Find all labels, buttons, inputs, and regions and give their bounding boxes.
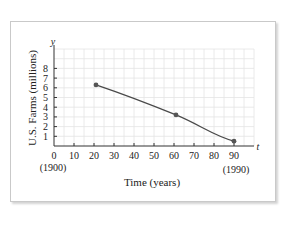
- x-tick-label: 40: [129, 150, 139, 161]
- y-tick-label: 3: [43, 111, 48, 122]
- y-axis-label: U.S. Farms (millions): [26, 50, 38, 146]
- x-tick-label: 30: [109, 150, 119, 161]
- year-annotation-end: (1990): [223, 164, 250, 175]
- x-tick-label: 50: [149, 150, 159, 161]
- t-axis-symbol: t: [257, 141, 260, 152]
- farms-curve: [96, 85, 234, 141]
- x-tick-label: 60: [169, 150, 179, 161]
- x-tick-label: 10: [69, 150, 79, 161]
- y-tick-label: 7: [43, 73, 48, 84]
- x-tick-label: 70: [189, 150, 199, 161]
- y-tick-label: 2: [43, 121, 48, 132]
- y-axis-symbol: y: [51, 36, 55, 47]
- y-tick-label: 5: [43, 92, 48, 103]
- year-annotation-start: (1900): [40, 162, 67, 173]
- data-point-marker: [232, 139, 237, 144]
- y-tick-label: 4: [43, 102, 48, 113]
- data-point-marker: [174, 113, 179, 118]
- x-tick-label: 80: [209, 150, 219, 161]
- x-tick-label: 20: [89, 150, 99, 161]
- x-tick-label: 90: [229, 150, 239, 161]
- x-tick-label: 0: [52, 150, 57, 161]
- y-tick-label: 6: [43, 82, 48, 93]
- y-tick-label: 1: [43, 131, 48, 142]
- y-tick-label: 8: [43, 63, 48, 74]
- data-point-marker: [94, 82, 99, 87]
- x-axis-label: Time (years): [124, 176, 180, 188]
